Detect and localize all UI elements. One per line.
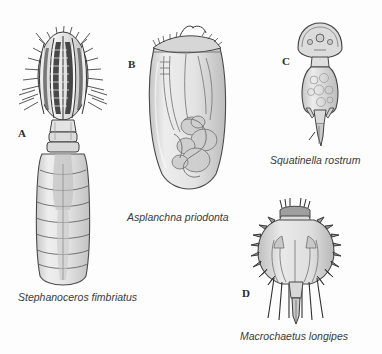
foot-toes — [289, 282, 303, 324]
corona-rim — [153, 26, 222, 53]
panel-letter-b: B — [128, 59, 136, 70]
head-tufts — [280, 198, 310, 218]
figure-c-squatinella — [288, 22, 352, 148]
lorica-shield — [258, 220, 334, 284]
panel-letter-c: C — [282, 56, 290, 67]
neck-rings — [47, 120, 79, 152]
caption-macrochaetus: Macrochaetus longipes — [240, 331, 348, 342]
neck — [311, 57, 329, 67]
panel-letter-a: A — [18, 128, 26, 139]
rotifer-illustration-plate: A B C D Stephanoceros fimbriatus Asplanc… — [0, 0, 382, 354]
caption-squatinella: Squatinella rostrum — [270, 155, 360, 166]
corona-arms — [38, 32, 88, 120]
caption-stephanoceros: Stephanoceros fimbriatus — [18, 292, 137, 303]
trunk-segments — [36, 154, 90, 285]
head-shield — [298, 23, 342, 58]
macrochaetus-drawing — [248, 196, 344, 324]
panel-letter-d: D — [242, 288, 250, 299]
asplanchna-drawing — [140, 22, 236, 202]
figure-d-macrochaetus — [248, 196, 344, 324]
stephanoceros-drawing — [8, 14, 118, 289]
caption-asplanchna: Asplanchna priodonta — [127, 212, 229, 223]
figure-a-stephanoceros — [8, 14, 118, 289]
figure-b-asplanchna — [140, 22, 236, 202]
squatinella-drawing — [288, 22, 352, 148]
foot-and-toes — [306, 108, 334, 146]
